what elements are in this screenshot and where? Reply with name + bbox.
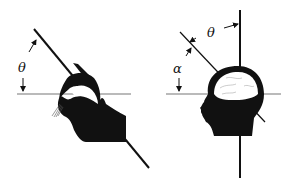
- diagram: θ θ α: [0, 0, 296, 192]
- cat-silhouette: [58, 63, 126, 142]
- head-silhouette: [200, 66, 264, 136]
- theta-label-right: θ: [207, 25, 215, 40]
- alpha-label: α: [173, 61, 182, 76]
- angle-arrow-upper: [29, 40, 36, 52]
- head-panel: θ α: [166, 10, 281, 178]
- theta-arrow-left: [190, 38, 196, 42]
- theta-label-left: θ: [18, 60, 26, 75]
- alpha-arrow-upper: [186, 48, 191, 56]
- cat-panel: θ: [17, 29, 149, 168]
- theta-arrow-right: [224, 24, 238, 28]
